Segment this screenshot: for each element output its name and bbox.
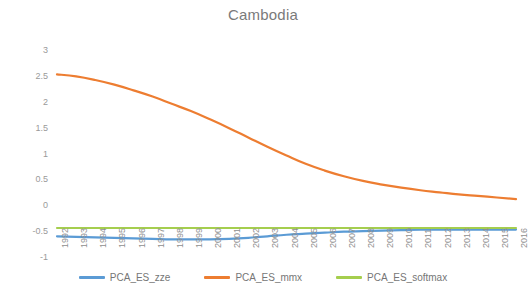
legend-swatch-icon — [336, 276, 362, 279]
y-tick-label: 0.5 — [18, 174, 48, 184]
y-tick-label: -0.5 — [18, 226, 48, 236]
x-tick-label: 2009 — [386, 228, 395, 248]
y-tick-label: 0 — [18, 200, 48, 210]
x-tick-label: 2016 — [520, 228, 529, 248]
x-tick-label: 1993 — [80, 228, 89, 248]
legend-label: PCA_ES_softmax — [367, 272, 447, 283]
legend-label: PCA_ES_zze — [110, 272, 171, 283]
legend-item[interactable]: PCA_ES_softmax — [336, 272, 447, 283]
x-tick-label: 1995 — [118, 228, 127, 248]
x-tick-label: 2006 — [329, 228, 338, 248]
x-tick-label: 1992 — [61, 228, 70, 248]
x-tick-label: 2011 — [424, 229, 433, 248]
x-tick-label: 1999 — [195, 228, 204, 248]
x-tick-label: 2013 — [463, 228, 472, 248]
x-tick-label: 2012 — [444, 228, 453, 248]
x-tick-label: 2003 — [271, 228, 280, 248]
x-tick-label: 2015 — [501, 228, 510, 248]
y-tick-label: 1 — [18, 149, 48, 159]
x-tick-label: 2008 — [367, 228, 376, 248]
x-tick-label: 2004 — [291, 228, 300, 248]
legend-label: PCA_ES_mmx — [235, 272, 302, 283]
series-lines — [57, 74, 516, 239]
y-tick-label: 1.5 — [18, 123, 48, 133]
x-tick-label: 2005 — [310, 228, 319, 248]
y-tick-label: -1 — [18, 252, 48, 262]
y-tick-label: 2.5 — [18, 71, 48, 81]
legend-item[interactable]: PCA_ES_mmx — [204, 272, 302, 283]
x-tick-label: 2000 — [214, 228, 223, 248]
x-tick-label: 1997 — [157, 228, 166, 248]
legend-swatch-icon — [79, 276, 105, 279]
legend-swatch-icon — [204, 276, 230, 279]
legend-item[interactable]: PCA_ES_zze — [79, 272, 171, 283]
y-tick-label: 3 — [18, 45, 48, 55]
x-tick-label: 1998 — [176, 228, 185, 248]
series-line-pca_es_mmx — [57, 74, 516, 199]
x-tick-label: 2001 — [233, 228, 242, 248]
x-tick-label: 1996 — [138, 228, 147, 248]
x-tick-label: 2014 — [482, 228, 491, 248]
x-tick-label: 2007 — [348, 228, 357, 248]
x-tick-label: 1994 — [99, 228, 108, 248]
x-tick-label: 2010 — [405, 228, 414, 248]
x-tick-label: 2002 — [252, 228, 261, 248]
y-tick-label: 2 — [18, 97, 48, 107]
chart-legend: PCA_ES_zzePCA_ES_mmxPCA_ES_softmax — [0, 272, 526, 283]
